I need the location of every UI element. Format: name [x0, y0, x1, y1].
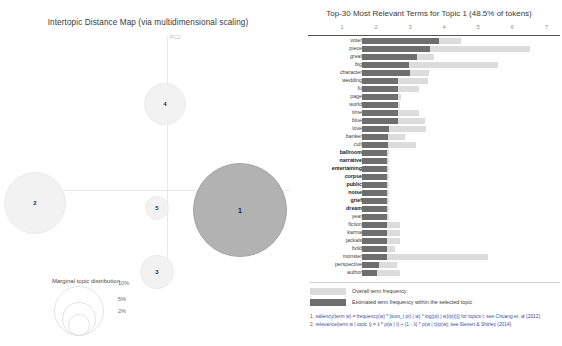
bar-topic-frequency	[362, 174, 387, 180]
bar-chart-legend: Overall term frequency Estimated term fr…	[310, 286, 560, 340]
topic-circle-5[interactable]: 5	[145, 196, 169, 220]
term-label[interactable]: ballroom	[302, 149, 362, 156]
term-row[interactable]: noise	[296, 189, 562, 197]
term-label[interactable]: great	[302, 53, 362, 60]
topic-circle-label-3: 3	[155, 269, 158, 275]
term-label[interactable]: public	[302, 181, 362, 188]
term-row[interactable]: cult	[296, 141, 562, 149]
top-terms-panel: Top-30 Most Relevant Terms for Topic 1 (…	[296, 0, 562, 346]
term-label[interactable]: voter	[302, 37, 362, 44]
term-row[interactable]: dream	[296, 205, 562, 213]
x-axis-tick-1: 1	[341, 24, 344, 30]
x-axis-tick-3: 3	[409, 24, 412, 30]
bar-topic-frequency	[362, 166, 387, 172]
legend-label-topic: Estimated term frequency within the sele…	[352, 299, 472, 306]
term-row[interactable]: jackals	[296, 237, 562, 245]
term-row[interactable]: year	[296, 213, 562, 221]
term-label[interactable]: grief	[302, 197, 362, 204]
x-axis-tick-5: 5	[477, 24, 480, 30]
term-label[interactable]: author	[302, 269, 362, 276]
term-row[interactable]: great	[296, 53, 562, 61]
term-label[interactable]: fiction	[302, 221, 362, 228]
bar-topic-frequency	[362, 110, 398, 116]
term-row[interactable]: love	[296, 125, 562, 133]
map-title: Intertopic Distance Map (via multidimens…	[0, 18, 296, 27]
term-label[interactable]: character	[302, 69, 362, 76]
term-row[interactable]: corpse	[296, 173, 562, 181]
term-label[interactable]: year	[302, 213, 362, 220]
term-row[interactable]: banker	[296, 133, 562, 141]
intertopic-distance-panel: Intertopic Distance Map (via multidimens…	[0, 0, 296, 346]
bar-topic-frequency	[362, 62, 409, 68]
topic-circle-label-5: 5	[155, 205, 158, 211]
term-label[interactable]: monster	[302, 253, 362, 260]
bar-topic-frequency	[362, 222, 387, 228]
map-canvas[interactable]: PC2 PC1 12345	[0, 30, 296, 278]
bar-topic-frequency	[362, 46, 430, 52]
bar-topic-frequency	[362, 254, 387, 260]
term-label[interactable]: piece	[302, 45, 362, 52]
marginal-bubble-label-10pct: 10%	[118, 280, 129, 286]
bar-topic-frequency	[362, 182, 387, 188]
term-label[interactable]: page	[302, 93, 362, 100]
term-row[interactable]: grief	[296, 197, 562, 205]
term-label[interactable]: bold	[302, 245, 362, 252]
term-label[interactable]: karma	[302, 229, 362, 236]
term-label[interactable]: time	[302, 109, 362, 116]
term-label[interactable]: love	[302, 125, 362, 132]
x-axis-tick-2: 2	[375, 24, 378, 30]
term-row[interactable]: bold	[296, 245, 562, 253]
bar-chart-title: Top-30 Most Relevant Terms for Topic 1 (…	[296, 9, 562, 18]
term-row[interactable]: fiction	[296, 221, 562, 229]
term-label[interactable]: entertaining	[302, 165, 362, 172]
term-label[interactable]: fu	[302, 85, 362, 92]
term-label[interactable]: wedding	[302, 77, 362, 84]
term-label[interactable]: dream	[302, 205, 362, 212]
term-row[interactable]: wedding	[296, 77, 562, 85]
term-row[interactable]: blue	[296, 117, 562, 125]
topic-circle-label-2: 2	[33, 200, 36, 206]
term-label[interactable]: cult	[302, 141, 362, 148]
term-row[interactable]: ballroom	[296, 149, 562, 157]
legend-label-overall: Overall term frequency	[352, 288, 407, 295]
term-label[interactable]: blue	[302, 117, 362, 124]
term-label[interactable]: noise	[302, 189, 362, 196]
term-row[interactable]: big	[296, 61, 562, 69]
topic-circle-label-4: 4	[163, 101, 166, 107]
legend-divider	[310, 282, 560, 283]
bar-topic-frequency	[362, 102, 398, 108]
topic-circle-2[interactable]: 2	[4, 172, 66, 234]
term-row[interactable]: character	[296, 69, 562, 77]
bar-topic-frequency	[362, 118, 398, 124]
marginal-bubble-label-2pct: 2%	[118, 308, 126, 314]
term-row[interactable]: karma	[296, 229, 562, 237]
term-label[interactable]: narrative	[302, 157, 362, 164]
bar-topic-frequency	[362, 38, 439, 44]
term-row[interactable]: monster	[296, 253, 562, 261]
term-row[interactable]: world	[296, 101, 562, 109]
x-axis-tick-7: 7	[545, 24, 548, 30]
term-row[interactable]: page	[296, 93, 562, 101]
bar-topic-frequency	[362, 230, 387, 236]
term-row[interactable]: narrative	[296, 157, 562, 165]
term-label[interactable]: perspective	[302, 261, 362, 268]
bar-topic-frequency	[362, 190, 387, 196]
term-row[interactable]: entertaining	[296, 165, 562, 173]
term-row[interactable]: author	[296, 269, 562, 277]
term-label[interactable]: big	[302, 61, 362, 68]
topic-circle-1[interactable]: 1	[193, 163, 287, 257]
term-label[interactable]: corpse	[302, 173, 362, 180]
term-label[interactable]: world	[302, 101, 362, 108]
term-label[interactable]: jackals	[302, 237, 362, 244]
bar-topic-frequency	[362, 70, 410, 76]
term-row[interactable]: time	[296, 109, 562, 117]
term-row[interactable]: piece	[296, 45, 562, 53]
bar-chart-rows: voterpiecegreatbigcharacterweddingfupage…	[296, 37, 562, 283]
term-row[interactable]: fu	[296, 85, 562, 93]
term-label[interactable]: banker	[302, 133, 362, 140]
topic-circle-4[interactable]: 4	[144, 83, 186, 125]
term-row[interactable]: perspective	[296, 261, 562, 269]
term-row[interactable]: public	[296, 181, 562, 189]
legend-swatch-overall	[310, 288, 346, 295]
term-row[interactable]: voter	[296, 37, 562, 45]
